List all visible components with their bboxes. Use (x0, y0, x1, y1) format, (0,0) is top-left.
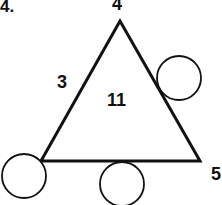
triangle-puzzle-diagram: 4. 4 5 3 11 (0, 0, 222, 205)
bottom-side-answer-circle[interactable] (100, 162, 144, 205)
bottom-left-answer-circle[interactable] (2, 154, 46, 198)
problem-number: 4. (0, 0, 14, 16)
right-side-answer-circle[interactable] (157, 56, 201, 100)
left-side-label: 3 (57, 72, 67, 92)
center-sum-label: 11 (107, 90, 126, 110)
bottom-right-vertex-label: 5 (211, 164, 221, 184)
top-vertex-label: 4 (112, 0, 122, 14)
